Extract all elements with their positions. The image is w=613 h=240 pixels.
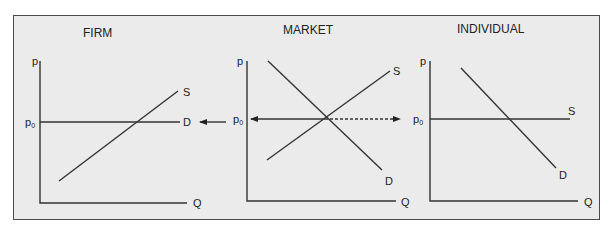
individual-axes bbox=[430, 61, 578, 201]
individual-x-axis-label: Q bbox=[584, 197, 593, 208]
firm-y-axis-label: p bbox=[32, 56, 38, 67]
market-demand-line bbox=[268, 61, 382, 170]
market-price-label: p0 bbox=[233, 114, 243, 126]
individual-demand-label: D bbox=[559, 170, 567, 181]
market-title: MARKET bbox=[283, 24, 333, 36]
market-demand-label: D bbox=[385, 176, 393, 187]
price-subscript: 0 bbox=[31, 122, 35, 129]
individual-demand-line bbox=[461, 68, 556, 168]
firm-supply-label: S bbox=[183, 87, 190, 98]
firm-demand-label: D bbox=[183, 117, 191, 128]
firm-supply-line bbox=[59, 91, 178, 181]
price-subscript: 0 bbox=[239, 119, 243, 126]
firm-x-axis-label: Q bbox=[193, 198, 202, 209]
firm-title: FIRM bbox=[83, 27, 112, 39]
individual-y-axis-label: p bbox=[420, 56, 426, 67]
firm-price-label: p0 bbox=[25, 117, 35, 129]
market-x-axis-label: Q bbox=[401, 197, 410, 208]
market-supply-line bbox=[267, 71, 390, 160]
price-subscript: 0 bbox=[419, 119, 423, 126]
individual-price-label: p0 bbox=[413, 114, 423, 126]
market-y-axis-label: p bbox=[237, 56, 243, 67]
individual-title: INDIVIDUAL bbox=[457, 23, 524, 35]
firm-axes bbox=[40, 61, 187, 203]
market-supply-label: S bbox=[393, 66, 400, 77]
individual-supply-label: S bbox=[568, 106, 575, 117]
